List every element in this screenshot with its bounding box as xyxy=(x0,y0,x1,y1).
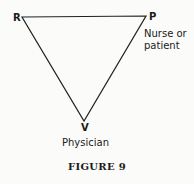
vertex-label-v: V xyxy=(81,122,89,133)
triangle-shape xyxy=(22,16,146,121)
vertex-label-p: P xyxy=(149,11,156,22)
vertex-p-description-line1: Nurse or xyxy=(144,28,187,39)
vertex-v-description: Physician xyxy=(62,137,109,148)
figure-caption: FIGURE 9 xyxy=(0,161,194,172)
vertex-label-r: R xyxy=(13,12,21,23)
vertex-p-description-line2: patient xyxy=(144,40,180,51)
